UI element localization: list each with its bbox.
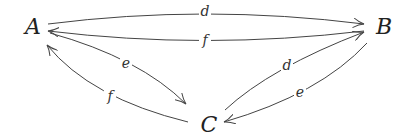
edge-b-to-a-f: f	[48, 31, 364, 48]
diagram-canvas: d f e f d e A B C	[0, 0, 409, 139]
edge-label-d-right: d	[283, 57, 292, 73]
edge-label-e-left: e	[122, 55, 130, 71]
node-b: B	[375, 14, 392, 39]
edge-label-d-top: d	[201, 3, 210, 19]
edge-label-e-right: e	[296, 84, 304, 100]
edge-a-to-b-d: d	[48, 3, 364, 24]
node-a: A	[23, 14, 41, 39]
node-c: C	[201, 112, 218, 137]
edge-b-to-c-e: e	[224, 43, 367, 122]
edge-c-to-a-f: f	[47, 45, 188, 122]
